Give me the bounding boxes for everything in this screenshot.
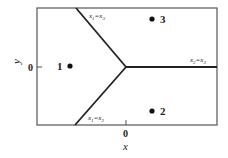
point-2-marker xyxy=(149,108,154,113)
boundary-label-right: x2=x3 xyxy=(189,56,206,65)
point-3-marker xyxy=(149,16,154,21)
x-axis-tick-label: 0 xyxy=(123,128,128,139)
x-axis-label: x xyxy=(122,140,128,152)
point-1-marker xyxy=(67,63,72,68)
boundary-label-upper: x1=x3 xyxy=(88,12,105,21)
point-3-label: 3 xyxy=(160,13,166,25)
point-1-label: 1 xyxy=(57,60,63,72)
point-2-label: 2 xyxy=(160,105,166,117)
y-axis-label: y xyxy=(10,59,22,65)
y-axis-tick-label: 0 xyxy=(28,62,33,73)
decision-boundary-diagram: x1=x3 x1=x2 x2=x3 1 3 2 0 0 x y xyxy=(0,0,228,158)
boundary-label-lower: x1=x2 xyxy=(87,114,104,123)
